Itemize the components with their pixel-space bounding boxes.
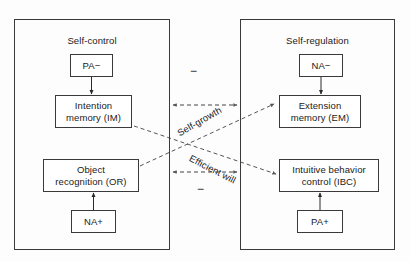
node-extension-memory-label: Extension memory (EM) [291,100,350,124]
node-extension-memory-line2: memory (EM) [291,112,350,123]
node-pa-plus: PA+ [297,210,343,233]
panel-self-control-title: Self-control [15,35,169,46]
diagram-canvas: Self-control PA− Intention memory (IM) O… [0,0,410,262]
node-intuitive-behavior-control-line1: Intuitive behavior [292,164,366,175]
node-intention-memory: Intention memory (IM) [55,95,132,128]
node-na-plus-label: NA+ [84,216,103,228]
node-na-minus-label: NA− [311,60,330,72]
minus-sign-bottom: − [197,184,204,194]
panel-self-regulation-title: Self-regulation [241,35,394,46]
node-intuitive-behavior-control: Intuitive behavior control (IBC) [279,159,379,192]
node-pa-minus: PA− [70,54,113,77]
node-intention-memory-line2: memory (IM) [66,112,121,123]
node-intuitive-behavior-control-label: Intuitive behavior control (IBC) [292,164,366,188]
node-extension-memory-line1: Extension [299,100,342,111]
minus-sign-top: − [190,66,197,76]
node-object-recognition-line1: Object [77,164,105,175]
node-intuitive-behavior-control-line2: control (IBC) [302,176,357,187]
node-intention-memory-line1: Intention [75,100,112,111]
node-na-minus: NA− [299,54,343,77]
node-pa-minus-label: PA− [83,60,101,72]
node-na-plus: NA+ [71,210,116,233]
node-extension-memory: Extension memory (EM) [279,95,361,128]
node-object-recognition-line2: recognition (OR) [55,176,126,187]
node-object-recognition: Object recognition (OR) [43,159,139,192]
node-intention-memory-label: Intention memory (IM) [66,100,121,124]
node-object-recognition-label: Object recognition (OR) [55,164,126,188]
node-pa-plus-label: PA+ [311,216,329,228]
